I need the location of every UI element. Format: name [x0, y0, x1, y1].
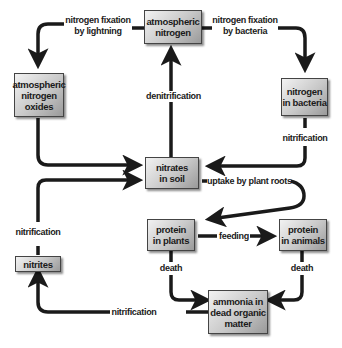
node-label: nitrogen: [21, 90, 57, 101]
node-protein-in-plants: proteinin plants: [147, 219, 195, 251]
label-feeding: feeding: [218, 231, 250, 242]
label-denitrification: denitrification: [146, 91, 198, 102]
node-protein-in-animals: proteinin animals: [279, 219, 327, 251]
arrow-ammonia-to-nitrites: [38, 272, 208, 312]
arrow-oxides-to-nitrates: [38, 118, 138, 165]
label-fixation-bacteria: nitrogen fixation by bacteria: [212, 15, 278, 36]
node-label: protein: [156, 224, 186, 235]
node-label: atmospheric: [12, 79, 65, 90]
node-label: matter: [224, 318, 251, 329]
node-atmospheric-nitrogen-oxides: atmosphericnitrogenoxides: [14, 73, 64, 117]
node-label: nitrites: [23, 259, 52, 270]
node-label: protein: [288, 224, 318, 235]
label-death-animals: death: [289, 263, 315, 274]
node-label: in bacteria: [282, 97, 326, 108]
node-nitrites: nitrites: [15, 256, 61, 272]
node-label: in plants: [153, 235, 189, 246]
arrow-nitrites-to-nitrates: [38, 180, 138, 255]
node-label: in soil: [159, 173, 184, 184]
node-label: nitrates: [156, 162, 188, 173]
arrow-death-plants: [171, 251, 206, 300]
node-label: nitrogen: [155, 27, 191, 38]
label-uptake: uptake by plant roots: [207, 176, 291, 187]
node-label: in animals: [281, 235, 324, 246]
nitrogen-cycle-diagram: atmosphericnitrogen atmosphericnitrogeno…: [0, 0, 342, 348]
node-label: oxides: [25, 101, 53, 112]
label-fixation-lightning: nitrogen fixation by lightning: [64, 15, 132, 36]
label-nitrification-nitrites: nitrification: [15, 227, 61, 238]
label-death-plants: death: [158, 263, 184, 274]
arrow-uptake: [202, 181, 304, 219]
node-label: dead organic: [210, 307, 266, 318]
label-line: nitrogen fixation: [212, 15, 278, 26]
node-atmospheric-nitrogen: atmosphericnitrogen: [144, 10, 202, 44]
node-label: nitrogen: [287, 86, 323, 97]
label-line: nitrogen fixation: [64, 15, 132, 26]
label-nitrification-ammonia: nitrification: [110, 307, 158, 318]
node-nitrates-in-soil: nitratesin soil: [145, 157, 199, 189]
node-nitrogen-in-bacteria: nitrogenin bacteria: [281, 78, 328, 116]
label-line: by bacteria: [212, 26, 278, 37]
node-ammonia-in-dead-organic-matter: ammonia indead organicmatter: [208, 290, 268, 334]
arrow-death-animals: [270, 251, 302, 300]
node-label: ammonia in: [213, 296, 263, 307]
label-line: by lightning: [64, 26, 132, 37]
node-label: atmospheric: [146, 16, 199, 27]
label-nitrification-bacteria: nitrification: [281, 133, 329, 144]
